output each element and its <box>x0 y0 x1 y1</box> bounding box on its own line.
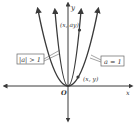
parabola-diagram: y x O (x, ay) (x, y) |a| > 1 a = 1 <box>0 0 136 125</box>
x-axis-label: x <box>126 89 130 97</box>
y-axis-label: y <box>70 4 76 12</box>
point-x-ay <box>78 28 81 31</box>
label-a-equals-1: a = 1 <box>104 58 122 66</box>
label-a-greater-1: |a| > 1 <box>19 56 41 64</box>
leader-a-equals-1 <box>91 55 101 60</box>
point-x-y-label: (x, y) <box>83 75 99 83</box>
point-x-ay-label: (x, ay) <box>60 21 80 29</box>
leader-a-equals-1-b <box>90 58 101 62</box>
origin-label: O <box>61 89 67 97</box>
point-x-y <box>76 75 79 78</box>
